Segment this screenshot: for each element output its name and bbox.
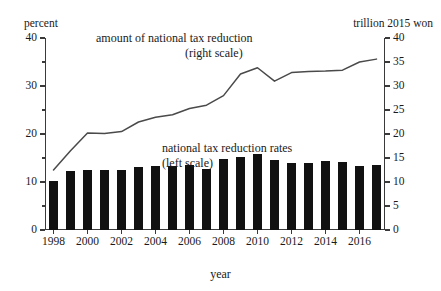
x-tick-1998 — [53, 230, 54, 234]
right-tick-15 — [385, 157, 390, 158]
x-tick-2004 — [155, 230, 156, 234]
x-tick-label-2004: 2004 — [144, 236, 167, 248]
x-tick-label-2002: 2002 — [110, 236, 133, 248]
right-tick-5 — [385, 205, 390, 206]
x-tick-label-2014: 2014 — [314, 236, 337, 248]
line-series-amount-of-national-tax-reduction — [45, 38, 385, 230]
annotation-bars-title: national tax reduction rates — [162, 141, 292, 155]
right-tick-35 — [385, 61, 390, 62]
right-tick-label-5: 5 — [393, 200, 399, 212]
x-tick-label-2006: 2006 — [178, 236, 201, 248]
annotation-line-series: amount of national tax reduction (right … — [96, 31, 253, 61]
right-tick-label-25: 25 — [393, 104, 405, 116]
right-tick-label-40: 40 — [393, 32, 405, 44]
x-tick-label-2000: 2000 — [76, 236, 99, 248]
right-tick-label-35: 35 — [393, 56, 405, 68]
right-tick-40 — [385, 37, 390, 38]
right-tick-0 — [385, 229, 390, 230]
x-tick-label-2008: 2008 — [212, 236, 235, 248]
x-tick-2010 — [257, 230, 258, 234]
x-tick-label-2010: 2010 — [246, 236, 269, 248]
x-tick-label-1998: 1998 — [42, 236, 65, 248]
annotation-bar-series: national tax reduction rates (left scale… — [162, 141, 292, 171]
right-tick-label-20: 20 — [393, 128, 405, 140]
x-tick-2014 — [325, 230, 326, 234]
left-tick-label-40: 40 — [26, 32, 38, 44]
x-tick-2006 — [189, 230, 190, 234]
left-axis-unit-label: percent — [24, 17, 58, 29]
left-tick-label-10: 10 — [26, 176, 38, 188]
x-tick-label-2012: 2012 — [280, 236, 303, 248]
chart-container: percent trillion 2015 won 010203040 0510… — [0, 0, 441, 291]
right-tick-label-30: 30 — [393, 80, 405, 92]
left-tick-label-30: 30 — [26, 80, 38, 92]
plot-area: 010203040 0510152025303540 — [45, 38, 385, 230]
right-axis-unit-label: trillion 2015 won — [353, 17, 433, 29]
x-tick-2008 — [223, 230, 224, 234]
x-axis-title: year — [0, 267, 441, 282]
annotation-bars-scale: (left scale) — [162, 156, 292, 171]
x-tick-2012 — [291, 230, 292, 234]
right-tick-20 — [385, 133, 390, 134]
x-tick-2016 — [359, 230, 360, 234]
right-tick-30 — [385, 85, 390, 86]
right-tick-25 — [385, 109, 390, 110]
right-tick-label-10: 10 — [393, 176, 405, 188]
right-tick-label-0: 0 — [393, 224, 399, 236]
left-tick-label-20: 20 — [26, 128, 38, 140]
right-tick-10 — [385, 181, 390, 182]
annotation-line-scale: (right scale) — [96, 46, 253, 61]
annotation-line-title: amount of national tax reduction — [96, 31, 253, 45]
x-tick-label-2016: 2016 — [348, 236, 371, 248]
x-tick-2002 — [121, 230, 122, 234]
x-tick-2000 — [87, 230, 88, 234]
right-tick-label-15: 15 — [393, 152, 405, 164]
left-tick-label-0: 0 — [31, 224, 37, 236]
